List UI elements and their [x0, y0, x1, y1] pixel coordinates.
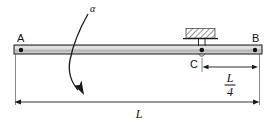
label-point-a: A: [17, 32, 25, 44]
dimension-total-length: L: [15, 100, 260, 122]
dim-arrow-quarter-left: [203, 65, 209, 70]
total-length-label: L: [135, 107, 143, 121]
support-b-pin: [253, 48, 257, 52]
dimension-quarter-length: L 4: [203, 65, 259, 99]
beam-highlight-band: [15, 46, 261, 49]
beam-diagram-canvas: L 4 L A B C α: [0, 0, 272, 124]
beam-member: [14, 45, 262, 54]
extension-lines: [16, 54, 260, 105]
point-labels: A B C α: [17, 3, 259, 70]
hatched-ground-icon: [186, 29, 215, 39]
support-a-pin: [19, 48, 23, 52]
pin-dot-c: [200, 48, 205, 53]
dim-arrow-quarter-right: [252, 65, 258, 70]
pin-dot-b: [253, 48, 257, 52]
quarter-numerator-label: L: [226, 71, 234, 85]
pin-dot-a: [19, 48, 23, 52]
dim-arrow-total-right: [253, 100, 260, 105]
label-point-c: C: [190, 58, 198, 70]
label-rotation-alpha: α: [90, 3, 96, 14]
beam-diagram-figure: L 4 L A B C α: [0, 0, 272, 124]
label-point-b: B: [252, 32, 259, 44]
quarter-denominator-label: 4: [227, 85, 233, 99]
